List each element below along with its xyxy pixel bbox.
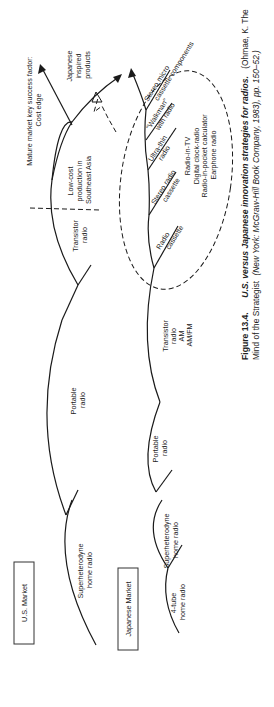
- us-stage1-line2: home radio: [85, 552, 94, 588]
- influence-dashed-arrow: [94, 98, 116, 132]
- us-stage3-line1: Transistor: [71, 220, 80, 252]
- japanese-market-label: Japanese Market: [124, 581, 133, 636]
- svg-text:Superheterodyne home radio: Superheterodyne home radio: [162, 511, 180, 568]
- figure-source-1: (Ohmae, K. The: [240, 9, 250, 69]
- figure-source-2b: (New York: McGraw-Hill Book Company, 198…: [251, 50, 261, 276]
- jp-stage2-line2: home radio: [171, 522, 180, 558]
- jp-stage3-line1: Portable: [151, 436, 160, 463]
- us-market-label: U.S. Market: [20, 584, 29, 622]
- us-stage4-line2: production in: [75, 160, 84, 201]
- us-stage3-line2: radio: [80, 227, 89, 243]
- svg-text:Portable radio: Portable radio: [69, 386, 87, 415]
- svg-text:Ultra-thin radio: Ultra-thin radio: [146, 132, 177, 167]
- figure-number: Figure 13.4.: [240, 312, 250, 360]
- innovation-diagram: U.S. Market Superheterodyne home radio P…: [0, 0, 274, 707]
- svg-text:Portable radio: Portable radio: [151, 434, 169, 463]
- us-branch-1: [66, 490, 78, 515]
- us-branch-2: [78, 265, 91, 285]
- us-arrow-head: [113, 74, 122, 83]
- jp-stage1-line2: home radio: [178, 584, 187, 620]
- jp-trunk-arrow-head: [128, 68, 136, 78]
- caption-line1: Figure 13.4. U.S. versus Japanese innova…: [234, 9, 251, 360]
- us-stage4-line1: Low-cost: [66, 167, 75, 196]
- jp-inspired-line3: products: [83, 51, 92, 79]
- annotation-line1: Mature market key success factor:: [25, 56, 34, 165]
- jp-stage3-line2: radio: [160, 440, 169, 456]
- jp-arc-transistor: [147, 268, 160, 402]
- us-arc-portable: [47, 320, 66, 515]
- svg-text:Radio cassette: Radio cassette: [154, 219, 185, 255]
- svg-text:Transistor radio: Transistor radio: [71, 218, 89, 252]
- other-product-4: Earphone radio: [209, 130, 218, 179]
- us-stage1-line1: Superheterodyne: [76, 543, 85, 598]
- svg-text:4-tube home radio: 4-tube home radio: [169, 584, 187, 620]
- jp-stage1-line1: 4-tube: [169, 593, 178, 613]
- us-stage2-line2: radio: [78, 392, 87, 408]
- annotation-line2: Cost edge: [34, 94, 43, 127]
- us-stage2-line1: Portable: [69, 388, 78, 415]
- jp-stage2-line1: Superheterodyne: [162, 513, 171, 568]
- svg-text:Superheterodyne home radio: Superheterodyne home radio: [76, 541, 94, 598]
- figure-title: U.S. versus Japanese innovation strategi…: [240, 76, 250, 298]
- svg-text:Stereo radio cassette: Stereo radio cassette: [149, 166, 185, 210]
- us-stage4-line3: Southeast Asia: [84, 156, 93, 204]
- caption-line2: Mind of the Strategist (New York: McGraw…: [251, 50, 261, 360]
- figure-source-2a: Mind of the Strategist: [251, 280, 261, 360]
- jp-inspired-line1: Japanese: [65, 50, 74, 81]
- us-divider: [30, 208, 100, 210]
- jp-branch-2: [156, 470, 172, 492]
- svg-text:Radio-in-TV Digital clock-: Radio-in-TV Digital clock-radio Radio-in…: [183, 112, 218, 197]
- svg-text:Transistor radio AM: Transistor radio AM AM/FM: [161, 318, 194, 352]
- us-arc-transistor: [51, 122, 78, 285]
- us-connector: [62, 285, 78, 320]
- svg-text:Low-cost production in: Low-cost production in Southeast Asia: [66, 156, 93, 204]
- jp-inspired-line2: inspired: [74, 53, 83, 78]
- svg-text:Japanese inspired prod: Japanese inspired products: [65, 48, 92, 81]
- jp-stage4-line4: AM/FM: [185, 323, 194, 346]
